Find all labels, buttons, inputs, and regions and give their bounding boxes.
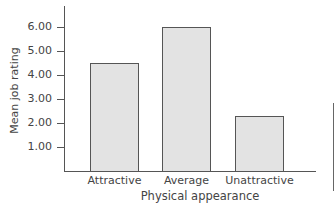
x-axis (64, 171, 316, 172)
x-tick-label: Unattractive (220, 174, 300, 187)
y-tick (57, 147, 64, 148)
page-edge-line (333, 103, 334, 191)
x-tick-label: Average (147, 174, 227, 187)
y-tick (57, 75, 64, 76)
y-tick (57, 99, 64, 100)
y-axis-label: Mean job rating (8, 36, 21, 146)
y-tick-label: 6.00 (2, 20, 52, 33)
y-axis (64, 6, 65, 172)
x-axis-label: Physical appearance (110, 189, 290, 203)
y-tick (57, 27, 64, 28)
bar-average (162, 27, 211, 171)
y-tick (57, 51, 64, 52)
bar-attractive (90, 63, 139, 171)
bar-unattractive (235, 116, 284, 171)
y-tick (57, 123, 64, 124)
x-tick-label: Attractive (75, 174, 155, 187)
